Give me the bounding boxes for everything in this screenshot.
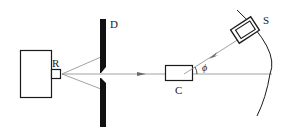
label-phi: ϕ — [202, 62, 207, 73]
beam-lower-ray — [62, 74, 101, 89]
label-s: S — [263, 14, 269, 26]
scattering-diagram: R D C ϕ S — [0, 0, 290, 135]
detector-s — [231, 17, 260, 43]
source-r-box — [52, 70, 61, 79]
beam-upper-ray — [62, 57, 101, 74]
target-c-box — [166, 66, 193, 81]
label-r: R — [52, 57, 60, 69]
diaphragm-upper — [100, 19, 106, 73]
beam-arrow-icon — [137, 72, 146, 76]
label-c: C — [175, 84, 182, 96]
source-housing — [21, 51, 52, 98]
angle-arc — [195, 67, 197, 74]
label-d: D — [110, 18, 118, 30]
diaphragm-lower — [100, 78, 106, 127]
